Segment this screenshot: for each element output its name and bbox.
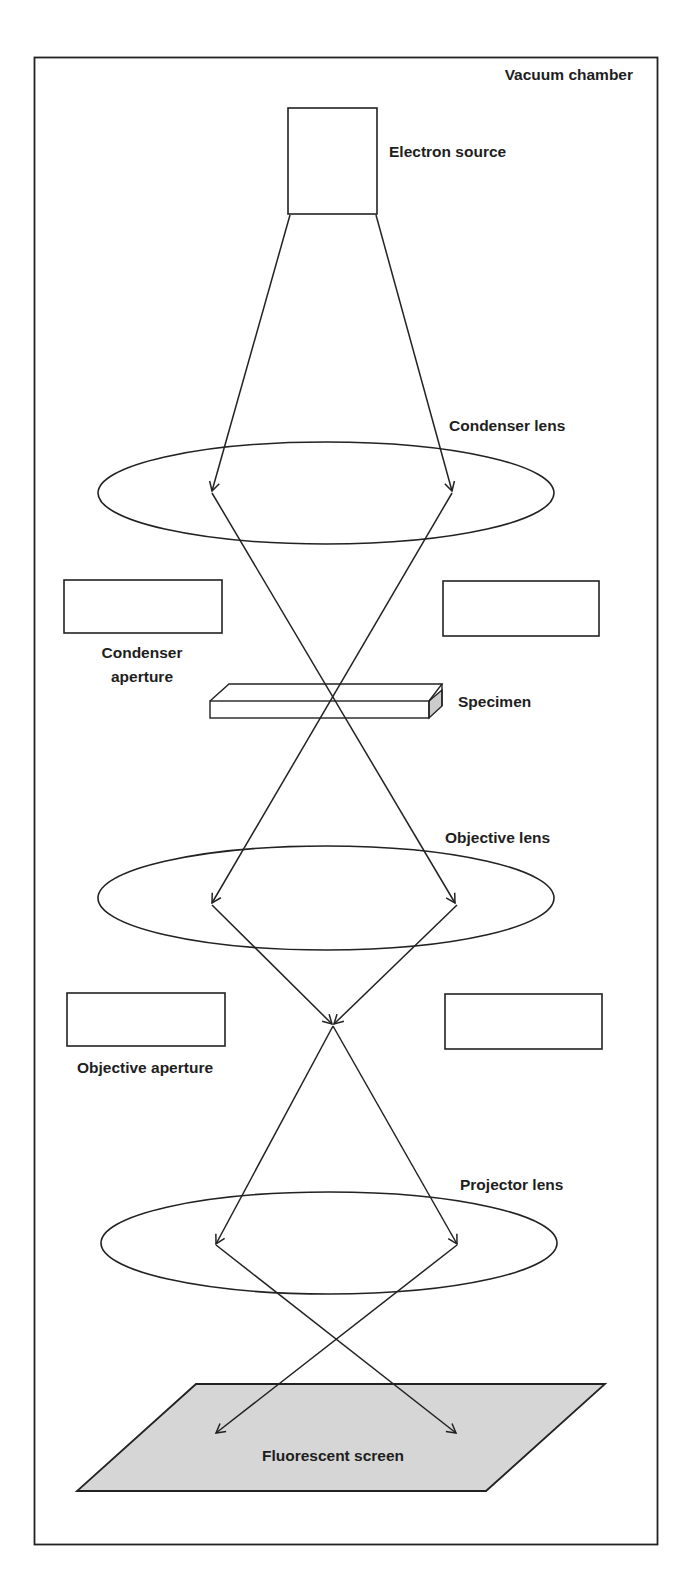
objective-aperture-left — [67, 993, 225, 1046]
condenser-aperture-left — [64, 580, 222, 633]
beam-source-to-condenser — [212, 215, 452, 491]
condenser-lens — [98, 442, 554, 544]
projector-lens-label: Projector lens — [460, 1176, 563, 1193]
tem-diagram: Vacuum chamber Electron source Condenser… — [0, 0, 681, 1569]
objective-aperture-label: Objective aperture — [77, 1059, 213, 1076]
beam-objective-to-crossover — [212, 905, 457, 1024]
beam-condenser-to-objective — [212, 493, 455, 903]
vacuum-chamber-label: Vacuum chamber — [505, 66, 633, 83]
fluorescent-screen-label: Fluorescent screen — [262, 1447, 404, 1464]
vacuum-chamber-frame — [35, 58, 658, 1545]
objective-lens-label: Objective lens — [445, 829, 550, 846]
specimen-label: Specimen — [458, 693, 531, 710]
specimen — [210, 684, 442, 718]
electron-source-label: Electron source — [389, 143, 507, 160]
specimen-side-face — [429, 690, 442, 718]
beam-crossover-to-projector — [216, 1026, 457, 1244]
objective-lens — [98, 846, 554, 950]
objective-aperture-right — [445, 994, 602, 1049]
condenser-lens-label: Condenser lens — [449, 417, 565, 434]
condenser-aperture-label-line1: Condenser — [102, 644, 183, 661]
condenser-aperture-right — [443, 581, 599, 636]
electron-source-box — [288, 108, 377, 214]
projector-lens — [101, 1192, 557, 1294]
condenser-aperture-label-line2: aperture — [111, 668, 173, 685]
fluorescent-screen — [77, 1384, 605, 1491]
